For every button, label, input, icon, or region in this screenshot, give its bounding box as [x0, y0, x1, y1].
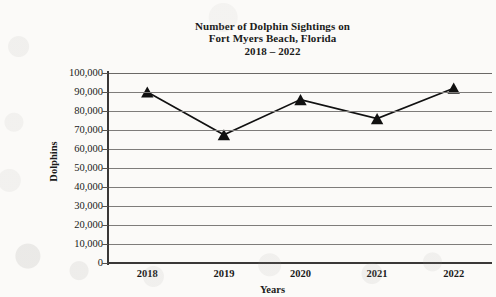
gridline [109, 111, 492, 112]
y-axis-tick [102, 206, 108, 207]
gridline [109, 168, 492, 169]
y-axis-tick-label: 30,000 [49, 201, 103, 212]
chart-title-line-1: Number of Dolphin Sightings on [40, 20, 496, 32]
chart-title: Number of Dolphin Sightings on Fort Myer… [40, 20, 496, 57]
y-axis-tick-label: 0 [49, 258, 103, 269]
y-axis-tick [102, 244, 108, 245]
data-point-marker [371, 113, 383, 124]
y-axis-tick-label: 90,000 [49, 87, 103, 98]
x-axis-tick-label: 2020 [271, 268, 331, 279]
y-axis-tick [102, 111, 108, 112]
x-axis-title: Years [40, 284, 496, 295]
y-axis-tick [102, 130, 108, 131]
gridline [109, 244, 492, 245]
y-axis-tick-label: 40,000 [49, 182, 103, 193]
y-axis-tick-labels: 100,00090,00080,00070,00060,00050,00040,… [43, 16, 103, 297]
chart-title-line-2: Fort Myers Beach, Florida [40, 32, 496, 44]
y-axis-tick [102, 187, 108, 188]
line-chart-figure: Number of Dolphin Sightings on Fort Myer… [40, 16, 425, 275]
chart-title-line-3: 2018 – 2022 [40, 45, 496, 57]
y-axis-tick [102, 92, 108, 93]
gridline [109, 225, 492, 226]
y-axis-tick [102, 168, 108, 169]
y-axis-tick [102, 225, 108, 226]
gridline [109, 92, 492, 93]
gridline [109, 130, 492, 131]
gridline [109, 149, 492, 150]
y-axis-tick-label: 50,000 [49, 163, 103, 174]
plot-area [109, 73, 492, 263]
gridline [109, 187, 492, 188]
data-point-marker [294, 94, 306, 105]
y-axis-tick-label: 80,000 [49, 106, 103, 117]
gridline [109, 206, 492, 207]
y-axis-tick-label: 10,000 [49, 239, 103, 250]
y-axis-tick [102, 263, 108, 264]
x-axis-tick-label: 2018 [117, 268, 177, 279]
y-axis-tick-label: 60,000 [49, 144, 103, 155]
gridline [109, 73, 492, 74]
y-axis-tick-label: 20,000 [49, 220, 103, 231]
y-axis-tick [102, 73, 108, 74]
x-axis-tick-label: 2021 [347, 268, 407, 279]
y-axis-tick [102, 149, 108, 150]
y-axis-tick-label: 100,000 [49, 68, 103, 79]
x-axis-tick-label: 2022 [424, 268, 484, 279]
x-axis-tick-label: 2019 [194, 268, 254, 279]
y-axis-tick-label: 70,000 [49, 125, 103, 136]
